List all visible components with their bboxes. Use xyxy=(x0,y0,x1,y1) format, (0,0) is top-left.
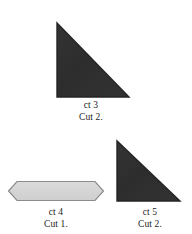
piece-4-name-label: ct 4 xyxy=(16,207,96,219)
piece-5-cut-label: Cut 2. xyxy=(110,219,190,231)
pattern-piece-triangle-5 xyxy=(115,139,184,205)
piece-3-cut-label: Cut 2. xyxy=(51,112,131,124)
pattern-piece-4-caption: ct 4 Cut 1. xyxy=(16,207,96,230)
pattern-piece-triangle-3 xyxy=(55,21,133,101)
triangle-5-polygon xyxy=(117,141,180,201)
piece-3-name-label: ct 3 xyxy=(51,100,131,112)
piece-5-name-label: ct 5 xyxy=(110,207,190,219)
piece-4-cut-label: Cut 1. xyxy=(16,219,96,231)
pattern-sheet: ct 3 Cut 2. ct 4 Cut 1. xyxy=(0,0,192,234)
hexagon-4-polygon xyxy=(9,182,104,201)
pattern-piece-3-caption: ct 3 Cut 2. xyxy=(51,100,131,123)
pattern-piece-5-caption: ct 5 Cut 2. xyxy=(110,207,190,230)
triangle-3-polygon xyxy=(57,23,129,97)
pattern-piece-hexagon-4 xyxy=(7,180,107,204)
